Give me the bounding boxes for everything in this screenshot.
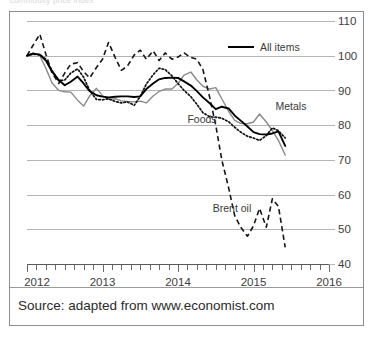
x-axis-label: 2014 <box>165 276 191 287</box>
metals-label: Metals <box>276 100 307 112</box>
y-axis-label: 70 <box>338 154 351 166</box>
y-axis-label: 40 <box>338 258 351 270</box>
chart-plot-area: 110100908070605040 20122013201420152016 … <box>9 11 364 286</box>
x-axis-label: 2013 <box>90 276 116 287</box>
series-annotations-group: MetalsFoodsBrent oil <box>187 100 306 214</box>
source-divider <box>10 287 363 288</box>
x-axis-label: 2015 <box>241 276 267 287</box>
series-line-all-items <box>27 54 285 146</box>
x-axis-label: 2012 <box>24 276 50 287</box>
chart-figure: commodity price index 110100908070605040… <box>0 0 374 337</box>
y-axis-label: 80 <box>338 119 351 131</box>
x-axis-labels-group: 20122013201420152016 <box>24 276 342 287</box>
series-line-brent-oil <box>27 34 285 247</box>
x-tickmarks-group <box>28 265 330 272</box>
series-line-foods <box>27 54 285 140</box>
cropped-title-remnant: commodity price index <box>10 0 250 5</box>
legend-group: All items <box>228 41 300 53</box>
series-group <box>27 34 285 247</box>
brent-oil-label: Brent oil <box>213 202 252 214</box>
source-note: Source: adapted from www.economist.com <box>18 296 358 316</box>
y-axis-label: 90 <box>338 85 351 97</box>
y-axis-label: 60 <box>338 189 351 201</box>
commodity-price-index-line-chart: 110100908070605040 20122013201420152016 … <box>9 11 364 286</box>
series-line-metals <box>27 53 285 155</box>
legend-label-all-items: All items <box>260 41 300 53</box>
y-axis-labels-group: 110100908070605040 <box>338 15 357 270</box>
foods-label: Foods <box>187 113 216 125</box>
y-axis-label: 110 <box>338 15 356 27</box>
y-axis-label: 50 <box>338 223 351 235</box>
gridlines-group <box>27 22 335 265</box>
y-axis-label: 100 <box>338 50 357 62</box>
x-axis-label: 2016 <box>316 276 342 287</box>
